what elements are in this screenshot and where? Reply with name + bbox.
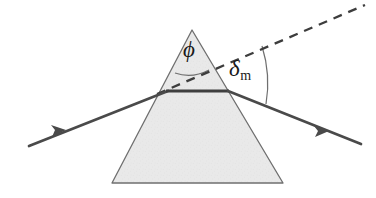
delta-symbol: δ: [229, 56, 240, 81]
deviation-angle-label: δm: [229, 57, 251, 83]
prism-body: [112, 30, 283, 183]
diagram-canvas: [0, 0, 376, 198]
deviation-angle-arc: [262, 46, 268, 104]
delta-subscript: m: [240, 68, 251, 83]
prism-refraction-figure: ϕ δm: [0, 0, 376, 198]
apex-angle-label: ϕ: [183, 38, 195, 61]
